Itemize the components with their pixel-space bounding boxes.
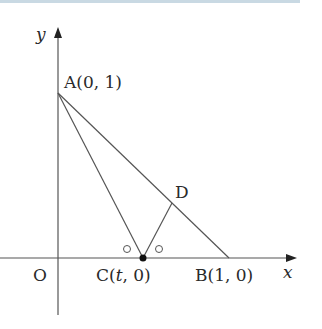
- point-C-label: C(t, 0): [96, 265, 151, 285]
- point-C-label-suffix: , 0): [122, 265, 150, 285]
- origin-label: O: [33, 265, 47, 285]
- y-axis-label: y: [35, 24, 46, 44]
- segment-CD: [143, 203, 172, 258]
- angle-mark-left-icon: [124, 246, 131, 253]
- segment-AC: [58, 93, 143, 258]
- x-axis-label: x: [283, 262, 293, 282]
- segment-AB: [58, 93, 229, 258]
- x-axis-arrow-icon: [286, 254, 297, 262]
- y-axis-arrow-icon: [54, 27, 62, 38]
- point-C-dot: [140, 255, 147, 262]
- angle-mark-right-icon: [156, 246, 163, 253]
- point-A-label: A(0, 1): [63, 72, 122, 92]
- point-D-label: D: [175, 182, 189, 202]
- point-B-label: B(1, 0): [195, 265, 253, 285]
- coordinate-diagram: y x O A(0, 1) B(1, 0) D C(t, 0): [0, 0, 322, 329]
- point-C-label-prefix: C(: [96, 265, 116, 285]
